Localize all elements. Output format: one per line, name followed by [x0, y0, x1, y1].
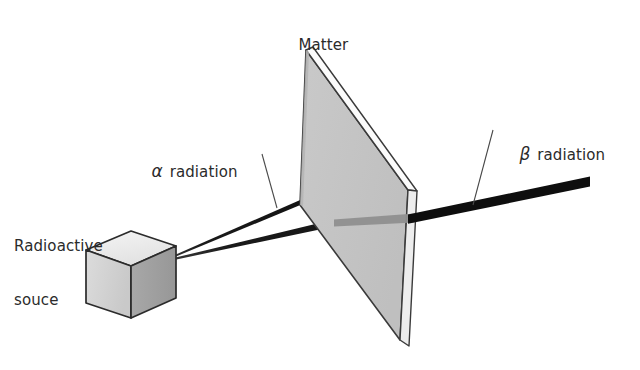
source-label-line2: souce	[14, 291, 103, 309]
alpha-leader-line	[262, 154, 277, 208]
beta-label-text: radiation	[532, 146, 605, 164]
matter-slab	[300, 47, 417, 346]
alpha-label-text: radiation	[165, 163, 238, 181]
radiation-penetration-diagram: Matter Radioactive souce α radiation β r…	[0, 0, 640, 370]
matter-label-text: Matter	[298, 36, 348, 54]
beta-leader-line	[473, 130, 493, 205]
beta-ray-outgoing	[408, 177, 590, 224]
alpha-radiation-label: α radiation	[132, 143, 238, 200]
radioactive-source-label: Radioactive souce	[14, 200, 103, 346]
beta-symbol: β	[519, 144, 532, 164]
source-label-line1: Radioactive	[14, 237, 103, 255]
matter-label: Matter	[279, 18, 348, 73]
beta-radiation-label: β radiation	[500, 126, 605, 183]
alpha-symbol: α	[151, 161, 164, 181]
beta-ray-incoming	[167, 220, 334, 262]
